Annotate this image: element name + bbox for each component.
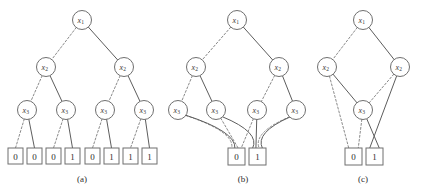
edge-high-a-x3-2-to-a-t3 [68, 119, 73, 148]
panel-caption-c: (c) [358, 174, 368, 184]
edge-low-a-x3-3-to-a-t4 [93, 119, 103, 148]
edge-high-a-x2-r-to-a-x3-4 [128, 76, 140, 102]
terminal-label: 1 [109, 152, 114, 162]
edge-low-b-x3-1-to-b-t0 [186, 115, 232, 148]
edge-high-b-x3-3-to-b-t1 [256, 119, 257, 148]
edge-high-b-x2-r-to-b-x3-4 [282, 76, 292, 101]
panel-caption-a: (a) [77, 174, 87, 184]
edge-low-a-x2-l-to-a-x3-1 [31, 76, 42, 102]
edge-low-c-x2-r-to-c-x3 [369, 74, 394, 103]
node-layer: x1x2x2x3x3x3x3x1x2x2x3x3x3x3x1x2x2x3 [18, 11, 410, 120]
edge-low-a-x3-2-to-a-t2 [54, 119, 64, 148]
terminal-label: 0 [13, 152, 18, 162]
edge-high-c-x1-to-c-x2-r [369, 27, 394, 59]
terminal-label: 1 [372, 152, 377, 162]
edge-high-b-x1-to-b-x2-r [243, 27, 272, 60]
edge-layer [16, 27, 397, 148]
panel-caption-b: (b) [238, 174, 249, 184]
edge-low-b-x3-3-to-b-t0 [241, 119, 253, 148]
terminal-label: 1 [255, 152, 260, 162]
edge-high-b-x3-4-to-b-t1 [261, 117, 290, 148]
terminal-label: 1 [147, 152, 152, 162]
edge-low-a-x3-4-to-a-t6 [131, 119, 141, 148]
edge-high-c-x2-l-to-c-x3 [333, 74, 357, 102]
edge-high-b-x2-l-to-b-x3-2 [200, 76, 212, 102]
terminal-label: 0 [32, 152, 37, 162]
terminal-label: 0 [234, 152, 239, 162]
edge-high-b-x3-1-to-b-t0 [186, 115, 235, 148]
terminal-layer: 000101110101 [8, 148, 383, 165]
edge-low-a-x3-1-to-a-t0 [16, 119, 25, 148]
caption-layer: (a)(b)(c) [77, 174, 368, 184]
edge-low-b-x2-l-to-b-x3-1 [182, 76, 193, 101]
terminal-label: 1 [70, 152, 75, 162]
edge-low-a-x2-r-to-a-x3-3 [109, 76, 120, 102]
edge-high-a-x3-3-to-a-t5 [107, 119, 112, 148]
edge-low-c-x1-to-c-x2-l [333, 28, 357, 60]
terminal-label: 0 [90, 152, 95, 162]
edge-high-a-x3-4-to-a-t7 [145, 119, 149, 148]
terminal-label: 0 [51, 152, 56, 162]
terminal-label: 0 [351, 152, 356, 162]
edge-high-b-x3-2-to-b-t1 [223, 117, 254, 148]
bdd-figure: x1x2x2x3x3x3x3x1x2x2x3x3x3x3x1x2x2x3 000… [0, 0, 421, 191]
edge-high-a-x1-to-a-x2-r [88, 27, 117, 60]
edge-high-a-x3-1-to-a-t1 [29, 119, 35, 148]
edge-high-a-x2-l-to-a-x3-2 [50, 76, 62, 102]
edge-low-b-x2-r-to-b-x3-3 [261, 75, 274, 101]
diagram-canvas: x1x2x2x3x3x3x3x1x2x2x3x3x3x3x1x2x2x3 000… [0, 0, 421, 191]
terminal-label: 1 [128, 152, 133, 162]
edge-high-c-x3-to-c-t1 [367, 119, 380, 148]
edge-low-b-x3-4-to-b-t1 [258, 117, 289, 148]
edge-low-b-x1-to-b-x2-l [202, 27, 231, 60]
edge-low-c-x3-to-c-t0 [358, 119, 362, 148]
edge-low-a-x1-to-a-x2-l [52, 28, 76, 60]
edge-low-c-x2-l-to-c-t0 [329, 76, 348, 148]
